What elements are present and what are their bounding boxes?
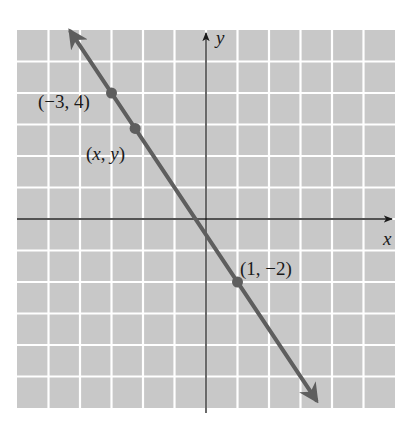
point-label-x-y: (x, y) — [86, 143, 125, 165]
data-point — [106, 88, 117, 99]
point-label-1-neg2: (1, −2) — [240, 258, 292, 280]
x-axis-label: x — [382, 228, 392, 249]
coordinate-plane: x y (−3, 4) (x, y) (1, −2) — [0, 0, 412, 432]
point-label-neg3-4: (−3, 4) — [38, 91, 90, 113]
y-axis-label: y — [214, 27, 225, 48]
data-point — [130, 123, 141, 134]
